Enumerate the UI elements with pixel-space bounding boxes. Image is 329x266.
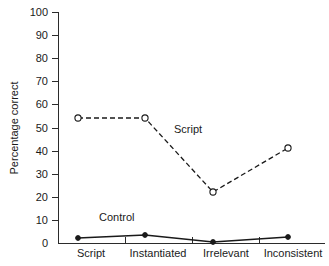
y-tick-label: 10 <box>36 214 48 226</box>
y-tick-label: 20 <box>36 191 48 203</box>
x-tick-label-inconsistent: Inconsistent <box>264 247 323 259</box>
line-chart: 100 90 80 70 60 50 40 30 20 10 0 Percent… <box>0 0 329 266</box>
y-tick-label: 0 <box>42 237 48 249</box>
y-tick-label: 70 <box>36 75 48 87</box>
series-label-control: Control <box>99 211 134 223</box>
y-tick-label: 30 <box>36 168 48 180</box>
y-tick-label: 50 <box>36 122 48 134</box>
data-point-control-script <box>76 236 81 241</box>
x-tick-label-instantiated: Instantiated <box>130 247 187 259</box>
y-tick-label: 80 <box>36 52 48 64</box>
y-tick-label: 90 <box>36 29 48 41</box>
data-point-script-inconsistent <box>285 145 291 151</box>
series-label-script: Script <box>174 123 202 135</box>
chart-container: 100 90 80 70 60 50 40 30 20 10 0 Percent… <box>0 0 329 266</box>
y-axis-title: Percentage correct <box>8 82 20 175</box>
x-tick-label-irrelevant: Irrelevant <box>203 247 249 259</box>
data-point-control-instantiated <box>143 233 148 238</box>
y-tick-label: 60 <box>36 98 48 110</box>
data-point-script-irrelevant <box>210 189 216 195</box>
y-tick-label: 100 <box>30 6 48 18</box>
y-axis-ticks <box>52 12 58 220</box>
data-point-control-irrelevant <box>211 240 216 245</box>
series-line-control <box>78 235 288 242</box>
y-tick-label: 40 <box>36 145 48 157</box>
data-point-control-inconsistent <box>286 235 291 240</box>
x-tick-label-script: Script <box>77 247 105 259</box>
data-point-script-instantiated <box>142 115 148 121</box>
data-point-script-script <box>75 115 81 121</box>
